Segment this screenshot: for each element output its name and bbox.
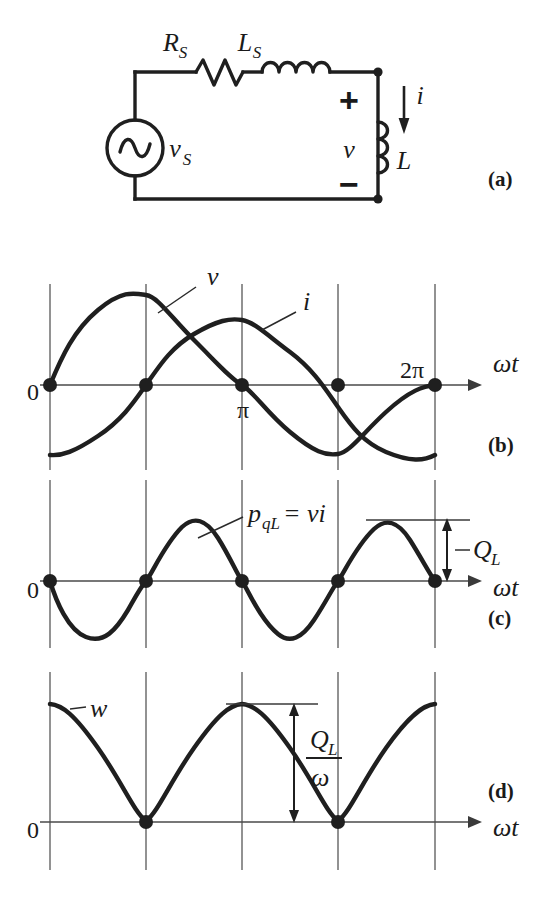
marker-d-1: [331, 815, 345, 829]
resistor-label-sub: S: [179, 43, 188, 62]
dim-arrow-down-QL-icon: [442, 569, 452, 582]
curve-label-voltage: v: [207, 262, 219, 291]
node-dot-top: [373, 67, 382, 76]
load-voltage-label: v: [343, 135, 355, 164]
series-inductor-label-sub: S: [253, 43, 262, 62]
axis-zero-label-b: 0: [27, 379, 39, 405]
curve-label-power: p: [246, 499, 261, 528]
leader-voltage: [158, 287, 196, 313]
axis-label-b: ωt: [493, 349, 519, 378]
axis-label-c: ωt: [493, 573, 519, 602]
marker-b-0: [43, 378, 57, 392]
annotation-QL-omega-numerator-sub: L: [327, 740, 337, 759]
node-dot-bottom: [373, 194, 382, 203]
curve-label-power-eq: = vi: [283, 499, 326, 528]
waveform-panel-d: w Q L ω 0 ωt (d): [27, 672, 519, 870]
polarity-plus: +: [339, 81, 359, 119]
waveform-panel-b: v i 0 π 2π ωt (b): [27, 262, 519, 470]
marker-c-2: [235, 574, 249, 588]
leader-energy: [70, 707, 86, 709]
marker-b-2: [235, 378, 249, 392]
annotation-QL: Q: [473, 535, 492, 564]
axis-zero-label-c: 0: [27, 577, 39, 603]
marker-c-1: [139, 574, 153, 588]
dim-arrow-down-QL-omega-icon: [289, 810, 299, 823]
panel-label-c: (c): [488, 606, 511, 630]
axis-tick-2pi: 2π: [400, 357, 424, 383]
panel-label-b: (b): [488, 433, 514, 457]
resistor-icon: [196, 60, 243, 85]
series-inductor-label: L: [237, 28, 252, 57]
marker-c-3: [331, 574, 345, 588]
leader-reactive-power: [198, 517, 243, 538]
axis-label-d: ωt: [493, 813, 519, 842]
curve-label-power-sub: qL: [262, 514, 280, 533]
marker-c-4: [428, 574, 442, 588]
waveform-panel-c: p qL = vi Q L ωt 0 (c): [27, 480, 519, 648]
axis-arrow-head-b-icon: [468, 379, 482, 391]
annotation-QL-sub: L: [490, 550, 500, 569]
marker-c-0: [43, 574, 57, 588]
resistor-label: R: [162, 28, 179, 57]
panel-label-d: (d): [488, 779, 514, 803]
leader-current: [262, 312, 296, 330]
marker-d-0: [139, 815, 153, 829]
ac-source-sine-icon: [120, 139, 150, 156]
polarity-minus: −: [339, 165, 359, 203]
marker-b-3: [331, 378, 345, 392]
curve-label-energy: w: [90, 694, 108, 723]
source-label-sub: S: [183, 150, 192, 169]
annotation-QL-omega-numerator: Q: [310, 725, 329, 754]
inductor-icon: [262, 63, 330, 73]
curve-label-current: i: [303, 287, 310, 316]
axis-tick-pi: π: [237, 397, 249, 423]
marker-b-4: [428, 378, 442, 392]
panel-label-a: (a): [488, 167, 513, 191]
current-arrow-head-icon: [399, 118, 410, 134]
axis-arrow-head-d-icon: [468, 816, 482, 828]
axis-arrow-head-c-icon: [468, 575, 482, 587]
source-label: v: [169, 134, 181, 163]
figure-svg: + − R S L S v S v L i (a): [0, 0, 547, 906]
load-inductor-label: L: [396, 146, 411, 175]
marker-b-1: [139, 378, 153, 392]
axis-zero-label-d: 0: [27, 817, 39, 843]
annotation-QL-omega-denominator: ω: [311, 763, 329, 792]
dim-arrow-up-QL-omega-icon: [289, 703, 299, 716]
current-label: i: [416, 81, 423, 110]
figure-container: + − R S L S v S v L i (a): [0, 0, 547, 906]
circuit-panel: + − R S L S v S v L i (a): [107, 28, 513, 204]
